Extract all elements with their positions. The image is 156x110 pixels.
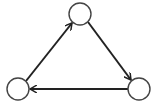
- graph-diagram: [0, 0, 156, 110]
- node-top: [69, 3, 91, 25]
- edge-bottom-left-to-top: [26, 23, 72, 81]
- edge-top-to-bottom-right: [88, 22, 131, 80]
- node-bottom-right: [128, 78, 150, 100]
- node-bottom-left: [7, 78, 29, 100]
